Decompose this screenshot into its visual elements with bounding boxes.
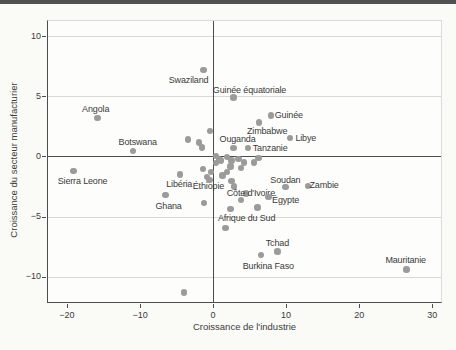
x-axis-tick — [359, 304, 360, 308]
x-zero-axis — [48, 156, 441, 157]
point-label-burkina-faso: Burkina Faso — [243, 261, 294, 271]
point-label-tchad: Tchad — [266, 238, 289, 248]
x-tick-label: 0 — [211, 310, 216, 320]
y-axis-tick — [42, 277, 46, 278]
y-axis-tick — [42, 96, 46, 97]
x-axis-title: Croissance de l'industrie — [48, 321, 441, 332]
data-point-afrique-du-sud — [227, 206, 233, 212]
x-axis-tick — [213, 304, 214, 308]
data-point-tanzanie — [245, 145, 251, 151]
point-label-liberia: Libéria — [166, 179, 192, 189]
data-point — [227, 163, 233, 169]
y-tick-label: 0 — [7, 151, 41, 161]
y-axis-tick — [42, 217, 46, 218]
data-point-ghana — [162, 192, 168, 198]
plot-area: SwazilandGuinée équatorialeGuinéeAngolaZ… — [47, 20, 442, 303]
data-point — [238, 165, 244, 171]
point-label-soudan: Soudan — [270, 175, 300, 185]
point-label-mauritanie: Mauritanie — [385, 255, 426, 265]
data-point-angola — [94, 115, 100, 121]
data-point-swaziland — [200, 67, 206, 73]
point-label-zambie: Zambie — [309, 180, 338, 190]
point-label-guinee: Guinée — [275, 110, 303, 120]
y-axis-tick — [42, 36, 46, 37]
data-point-botswana — [130, 148, 136, 154]
data-point — [255, 155, 261, 161]
x-tick-label: 10 — [281, 310, 291, 320]
data-point — [222, 225, 228, 231]
x-tick-label: −10 — [132, 310, 147, 320]
data-point-sierra-leone — [70, 168, 76, 174]
scatter-chart-screenshot: Croissance du secteur manufacturier Swaz… — [0, 0, 456, 350]
point-label-ghana: Ghana — [155, 201, 181, 211]
point-label-guinee-equatoriale: Guinée équatoriale — [213, 85, 286, 95]
point-label-swaziland: Swaziland — [169, 75, 209, 85]
data-point-libye — [287, 135, 293, 141]
point-label-angola: Angola — [82, 104, 109, 114]
data-point — [201, 200, 207, 206]
data-point — [219, 172, 225, 178]
x-tick-label: 20 — [354, 310, 364, 320]
data-point — [200, 166, 206, 172]
data-point-mauritanie — [403, 266, 409, 272]
data-point-burkina-faso — [258, 252, 264, 258]
data-point — [199, 144, 205, 150]
window-top-bar — [0, 0, 456, 4]
h-gridline — [48, 96, 441, 97]
x-axis-tick — [432, 304, 433, 308]
data-point-egypte — [265, 194, 271, 200]
point-label-ouganda: Ouganda — [220, 134, 256, 144]
x-axis-tick — [140, 304, 141, 308]
data-point — [254, 204, 260, 210]
x-tick-label: 30 — [427, 310, 437, 320]
data-point — [181, 289, 187, 295]
data-point-ouganda — [230, 145, 236, 151]
y-tick-label: 10 — [7, 31, 41, 41]
data-point-tchad — [274, 248, 280, 254]
point-label-libye: Libye — [295, 133, 316, 143]
point-label-sierra-leone: Sierra Leone — [58, 176, 108, 186]
point-label-ethiopie: Éthiopie — [193, 181, 224, 191]
x-tick-label: −20 — [59, 310, 74, 320]
point-label-tanzanie: Tanzanie — [253, 143, 288, 153]
y-tick-label: −10 — [7, 271, 41, 281]
point-label-botswana: Botswana — [119, 137, 157, 147]
x-axis-tick — [67, 304, 68, 308]
data-point-liberia — [177, 171, 183, 177]
y-tick-label: −5 — [7, 211, 41, 221]
data-point-guinee — [268, 112, 274, 118]
h-gridline — [48, 36, 441, 37]
h-gridline — [48, 277, 441, 278]
x-axis-tick — [286, 304, 287, 308]
y-axis-tick — [42, 156, 46, 157]
point-label-afrique-du-sud: Afrique du Sud — [218, 213, 275, 223]
point-label-egypte: Égypte — [272, 195, 299, 205]
y-tick-label: 5 — [7, 91, 41, 101]
data-point — [185, 136, 191, 142]
